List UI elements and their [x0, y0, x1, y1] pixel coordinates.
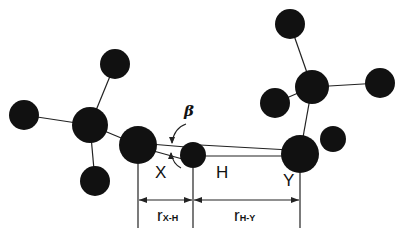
donor-x-label: X [155, 164, 166, 181]
distance-hy-label: rH-Y [234, 207, 255, 224]
hydrogen-h-label: H [216, 164, 228, 181]
distance-hy-subscript: H-Y [240, 213, 256, 223]
acceptor-y-label: Y [283, 172, 294, 189]
hbond-diagram: β X H Y rX-H rH-Y [0, 0, 405, 236]
angle-beta-label: β [184, 104, 194, 119]
atoms [9, 9, 395, 196]
molecule-drawing [0, 0, 405, 236]
distance-xh-subscript: X-H [163, 213, 179, 223]
distance-xh-label: rX-H [157, 207, 178, 224]
